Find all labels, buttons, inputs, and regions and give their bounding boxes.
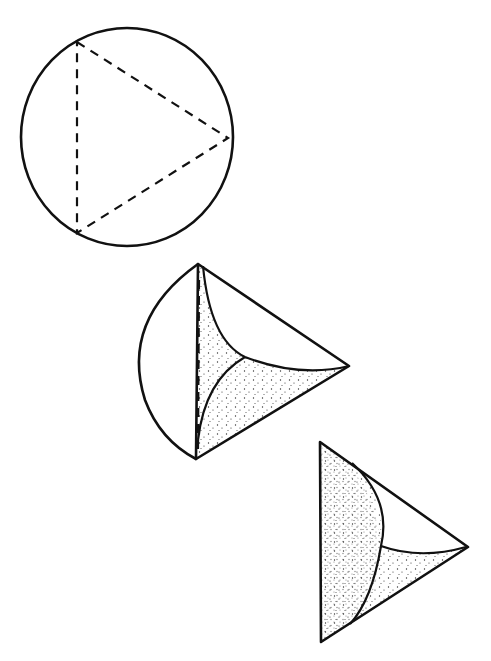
partially-folded-shape xyxy=(139,264,349,459)
sphere-outline xyxy=(21,28,233,246)
left-arc xyxy=(139,264,198,459)
diagram-canvas xyxy=(0,0,491,661)
tetrahedral-shape xyxy=(320,442,468,642)
dashed-triangle xyxy=(77,42,228,233)
sphere-with-inscribed-triangle xyxy=(21,28,233,246)
